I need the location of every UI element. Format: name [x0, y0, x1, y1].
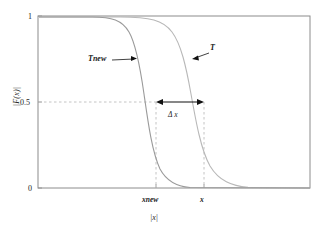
tnew-leader-line [112, 59, 134, 60]
x-tick-label-xnew: xnew [142, 195, 158, 204]
chart-plot-area [0, 0, 324, 236]
delta-x-arrow [156, 99, 204, 105]
y-tick-label-1: 1 [28, 12, 32, 21]
tnew-leader [112, 56, 137, 61]
y-tick-label-05: 0.5 [20, 98, 30, 107]
series-label-t: T [210, 43, 215, 52]
delta-x-arrowhead-left [156, 99, 163, 105]
series-label-tnew: Tnew [88, 54, 106, 63]
tnew-leader-arrowhead [131, 56, 137, 61]
y-tick-label-0: 0 [28, 184, 32, 193]
guide-lines [39, 102, 204, 188]
x-axis-label: |x| [150, 213, 158, 222]
x-tick-label-x: x [200, 195, 204, 204]
y-axis-label: |F(x)| [12, 67, 21, 127]
delta-x-arrowhead-right [197, 99, 204, 105]
t-leader [192, 53, 209, 61]
t-leader-arrowhead [192, 56, 199, 61]
chart-figure: |F(x)| |x| 1 0.5 0 xnew x Tnew T Δ x [0, 0, 324, 236]
delta-x-label: Δ x [168, 110, 177, 119]
